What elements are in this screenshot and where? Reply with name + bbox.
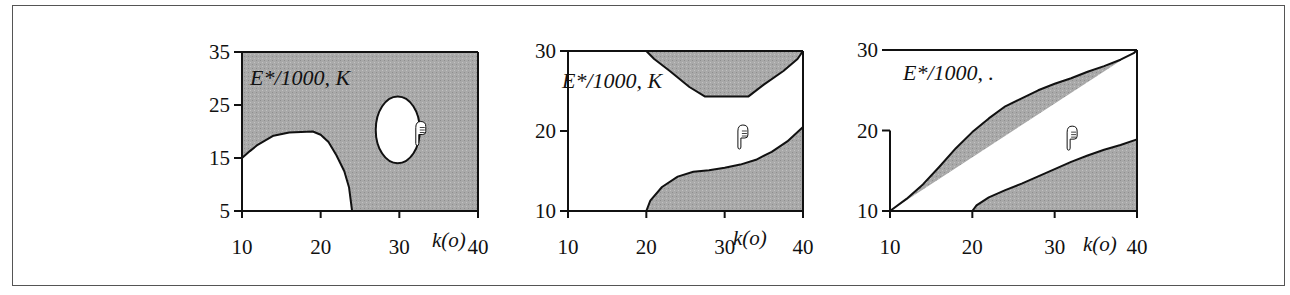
y-tick-label: 20 bbox=[857, 119, 878, 143]
panel-3: 30201010203040E*/1000, .k(o) bbox=[857, 38, 1148, 259]
region-unshaded-ellipse bbox=[376, 97, 420, 164]
x-axis-label: k(o) bbox=[1083, 232, 1117, 256]
x-tick-label: 30 bbox=[389, 235, 410, 259]
y-tick-label: 10 bbox=[857, 199, 878, 223]
x-tick-label: 20 bbox=[636, 235, 657, 259]
contour-panels: 352515510203040E*/1000, Kk(o) 3020101020… bbox=[0, 0, 1290, 295]
x-tick-label: 40 bbox=[468, 235, 489, 259]
x-tick-label: 10 bbox=[232, 235, 253, 259]
y-tick-label: 10 bbox=[535, 199, 556, 223]
panel-1: 352515510203040E*/1000, Kk(o) bbox=[209, 40, 489, 259]
panel-2: 30201010203040E*/1000, Kk(o) bbox=[535, 39, 814, 259]
y-tick-label: 5 bbox=[220, 199, 231, 223]
x-tick-label: 40 bbox=[1127, 235, 1148, 259]
y-tick-label: 35 bbox=[209, 40, 230, 64]
x-axis-label: k(o) bbox=[733, 226, 767, 250]
x-tick-label: 40 bbox=[793, 235, 814, 259]
x-tick-label: 20 bbox=[962, 235, 983, 259]
y-tick-label: 30 bbox=[857, 38, 878, 62]
y-tick-label: 25 bbox=[209, 93, 230, 117]
x-tick-label: 30 bbox=[1044, 235, 1065, 259]
y-tick-label: 30 bbox=[535, 39, 556, 63]
panel-title: E*/1000, K bbox=[561, 68, 664, 93]
panel-title: E*/1000, . bbox=[902, 60, 994, 85]
x-axis-label: k(o) bbox=[432, 228, 466, 252]
x-tick-label: 20 bbox=[310, 235, 331, 259]
y-tick-label: 20 bbox=[535, 119, 556, 143]
y-tick-label: 15 bbox=[209, 146, 230, 170]
x-tick-label: 10 bbox=[880, 235, 901, 259]
panel-title: E*/1000, K bbox=[249, 65, 352, 90]
x-tick-label: 10 bbox=[558, 235, 579, 259]
